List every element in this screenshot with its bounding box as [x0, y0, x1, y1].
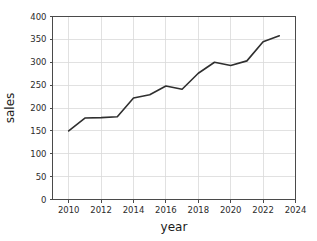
svg-text:2014: 2014 — [123, 205, 145, 215]
y-axis-title: sales — [3, 93, 17, 124]
svg-text:2022: 2022 — [252, 205, 274, 215]
line-chart: 050100150200250300350400 201020122014201… — [0, 0, 317, 241]
x-axis-title: year — [161, 220, 188, 234]
svg-text:2020: 2020 — [220, 205, 242, 215]
svg-text:250: 250 — [30, 80, 46, 90]
svg-text:150: 150 — [30, 126, 46, 136]
svg-text:200: 200 — [30, 103, 46, 113]
svg-text:0: 0 — [41, 195, 46, 205]
svg-text:2024: 2024 — [285, 205, 307, 215]
chart-figure: 050100150200250300350400 201020122014201… — [0, 0, 317, 241]
svg-text:2016: 2016 — [155, 205, 177, 215]
svg-text:300: 300 — [30, 57, 46, 67]
svg-text:350: 350 — [30, 34, 46, 44]
svg-text:2010: 2010 — [58, 205, 80, 215]
svg-text:2012: 2012 — [90, 205, 112, 215]
svg-text:50: 50 — [36, 172, 47, 182]
svg-text:400: 400 — [30, 12, 46, 22]
svg-text:100: 100 — [30, 149, 46, 159]
svg-text:2018: 2018 — [187, 205, 209, 215]
